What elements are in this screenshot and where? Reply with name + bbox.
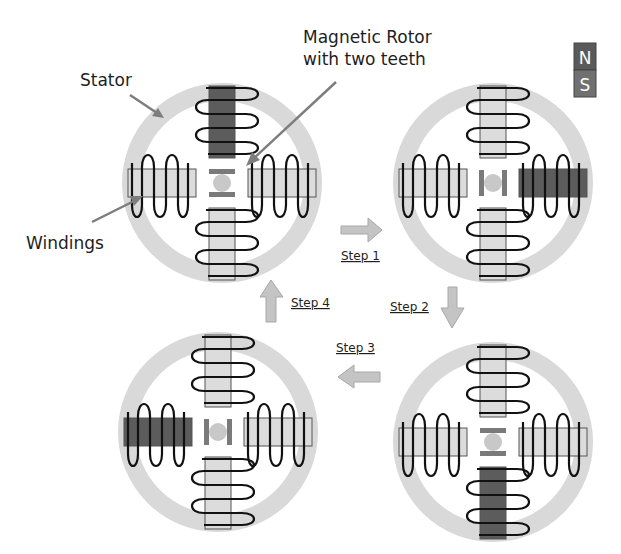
step-2-arrow: Step 2 <box>390 287 464 328</box>
motor-after-step-3 <box>124 335 312 529</box>
rotor-label-line2: with two teeth <box>303 49 426 69</box>
stator-label: Stator <box>80 70 132 90</box>
motor-after-step-1 <box>399 86 587 280</box>
step-4-label: Step 4 <box>291 296 330 310</box>
windings-label: Windings <box>26 233 104 253</box>
arrow-up-icon <box>260 280 283 322</box>
step-1-arrow: Step 1 <box>341 218 382 263</box>
motor-after-step-2 <box>399 345 587 539</box>
step-3-arrow: Step 3 <box>336 341 380 388</box>
magnet-polarity-legend: N S <box>574 43 596 97</box>
step-1-label: Step 1 <box>341 249 380 263</box>
arrow-left-icon <box>338 365 380 388</box>
step-2-label: Step 2 <box>390 300 429 314</box>
stepper-motor-diagram: Stator Magnetic Rotor with two teeth Win… <box>0 0 621 554</box>
rotor-label-line1: Magnetic Rotor <box>303 27 432 47</box>
north-label: N <box>579 48 592 68</box>
arrow-right-icon <box>341 218 382 242</box>
arrow-down-icon <box>441 287 464 328</box>
south-label: S <box>580 75 591 95</box>
step-4-arrow: Step 4 <box>260 280 330 322</box>
step-3-label: Step 3 <box>336 341 375 355</box>
